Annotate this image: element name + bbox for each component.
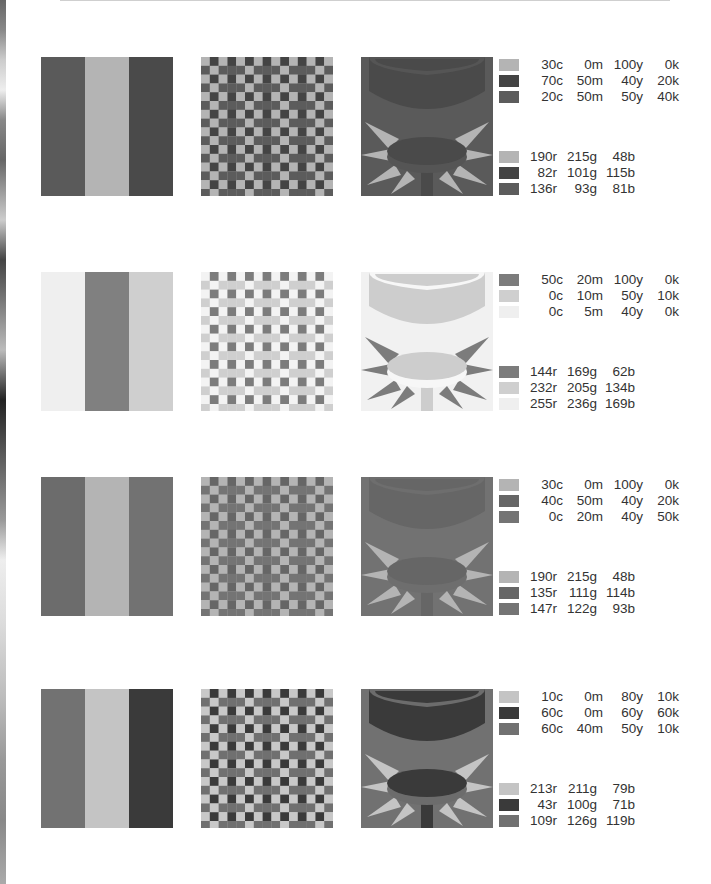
color-swatch — [499, 366, 519, 378]
cmyk-k-value: 60k — [649, 705, 679, 721]
rgb-r-value: 82r — [521, 165, 557, 181]
cmyk-y-value: 50y — [605, 89, 643, 105]
color-swatch — [499, 59, 519, 71]
cmyk-m-value: 0m — [565, 689, 603, 705]
checker-panel — [201, 689, 333, 828]
color-swatch — [499, 75, 519, 87]
stripe-3 — [129, 477, 173, 616]
rgb-r-value: 144r — [521, 364, 557, 380]
cmyk-row: 0c10m50y10k — [499, 288, 709, 304]
color-swatch — [499, 495, 519, 507]
cmyk-row: 0c5m40y0k — [499, 304, 709, 320]
color-swatch — [499, 167, 519, 179]
cmyk-m-value: 50m — [565, 89, 603, 105]
rgb-legend: 213r211g79b43r100g71b109r126g119b — [499, 781, 709, 829]
color-swatch — [499, 603, 519, 615]
rgb-g-value: 126g — [561, 813, 597, 829]
rgb-g-value: 236g — [561, 396, 597, 412]
cmyk-k-value: 10k — [649, 689, 679, 705]
cmyk-m-value: 10m — [565, 288, 603, 304]
stripe-panel — [41, 477, 173, 616]
rgb-g-value: 215g — [561, 149, 597, 165]
stripe-3 — [129, 272, 173, 411]
cmyk-m-value: 0m — [565, 57, 603, 73]
rgb-b-value: 48b — [599, 569, 635, 585]
stripe-2 — [85, 57, 129, 196]
rgb-row: 109r126g119b — [499, 813, 709, 829]
cmyk-c-value: 40c — [523, 493, 563, 509]
cmyk-m-value: 50m — [565, 493, 603, 509]
cmyk-row: 40c50m40y20k — [499, 493, 709, 509]
cmyk-m-value: 20m — [565, 272, 603, 288]
rgb-g-value: 101g — [561, 165, 597, 181]
cmyk-row: 70c50m40y20k — [499, 73, 709, 89]
cmyk-row: 0c20m40y50k — [499, 509, 709, 525]
cmyk-legend: 50c20m100y0k0c10m50y10k0c5m40y0k — [499, 272, 709, 320]
cmyk-row: 10c0m80y10k — [499, 689, 709, 705]
color-swatch — [499, 91, 519, 103]
color-swatch — [499, 707, 519, 719]
cmyk-legend: 10c0m80y10k60c0m60y60k60c40m50y10k — [499, 689, 709, 737]
color-swatch — [499, 571, 519, 583]
cmyk-k-value: 40k — [649, 89, 679, 105]
color-swatch — [499, 479, 519, 491]
cmyk-m-value: 50m — [565, 73, 603, 89]
color-swatch — [499, 151, 519, 163]
rgb-r-value: 147r — [521, 601, 557, 617]
rgb-r-value: 190r — [521, 149, 557, 165]
stripe-2 — [85, 272, 129, 411]
color-swatch — [499, 723, 519, 735]
color-swatch — [499, 306, 519, 318]
stripe-panel — [41, 272, 173, 411]
color-swatch — [499, 183, 519, 195]
cmyk-row: 30c0m100y0k — [499, 57, 709, 73]
cmyk-row: 60c0m60y60k — [499, 705, 709, 721]
cmyk-legend: 30c0m100y0k70c50m40y20k20c50m50y40k — [499, 57, 709, 105]
color-swatch — [499, 587, 519, 599]
cmyk-k-value: 20k — [649, 73, 679, 89]
cmyk-k-value: 10k — [649, 288, 679, 304]
rgb-r-value: 232r — [521, 380, 557, 396]
cmyk-legend: 30c0m100y0k40c50m40y20k0c20m40y50k — [499, 477, 709, 525]
cmyk-c-value: 10c — [523, 689, 563, 705]
rgb-row: 144r169g62b — [499, 364, 709, 380]
rgb-row: 190r215g48b — [499, 569, 709, 585]
stripe-1 — [41, 272, 85, 411]
rgb-g-value: 111g — [561, 585, 597, 601]
cmyk-k-value: 0k — [649, 272, 679, 288]
rgb-row: 82r101g115b — [499, 165, 709, 181]
rgb-b-value: 169b — [599, 396, 635, 412]
rgb-b-value: 81b — [599, 181, 635, 197]
rgb-b-value: 114b — [599, 585, 635, 601]
stripe-3 — [129, 57, 173, 196]
scene-panel — [361, 689, 493, 828]
rgb-g-value: 100g — [561, 797, 597, 813]
cmyk-c-value: 30c — [523, 57, 563, 73]
cmyk-k-value: 0k — [649, 57, 679, 73]
cmyk-y-value: 80y — [605, 689, 643, 705]
rgb-r-value: 213r — [521, 781, 557, 797]
rgb-b-value: 71b — [599, 797, 635, 813]
cmyk-y-value: 100y — [605, 477, 643, 493]
cmyk-y-value: 100y — [605, 272, 643, 288]
color-swatch — [499, 511, 519, 523]
cmyk-c-value: 20c — [523, 89, 563, 105]
cmyk-k-value: 10k — [649, 721, 679, 737]
cmyk-row: 30c0m100y0k — [499, 477, 709, 493]
rgb-row: 147r122g93b — [499, 601, 709, 617]
cmyk-row: 20c50m50y40k — [499, 89, 709, 105]
scene-panel — [361, 57, 493, 196]
rgb-r-value: 135r — [521, 585, 557, 601]
checker-panel — [201, 477, 333, 616]
rgb-g-value: 205g — [561, 380, 597, 396]
cmyk-y-value: 50y — [605, 721, 643, 737]
cmyk-y-value: 40y — [605, 509, 643, 525]
cmyk-y-value: 100y — [605, 57, 643, 73]
rgb-row: 213r211g79b — [499, 781, 709, 797]
rgb-row: 190r215g48b — [499, 149, 709, 165]
rgb-r-value: 109r — [521, 813, 557, 829]
top-rule — [60, 0, 670, 1]
rgb-b-value: 115b — [599, 165, 635, 181]
color-swatch — [499, 398, 519, 410]
plate-row-1: 30c0m100y0k70c50m40y20k20c50m50y40k190r2… — [0, 57, 711, 207]
